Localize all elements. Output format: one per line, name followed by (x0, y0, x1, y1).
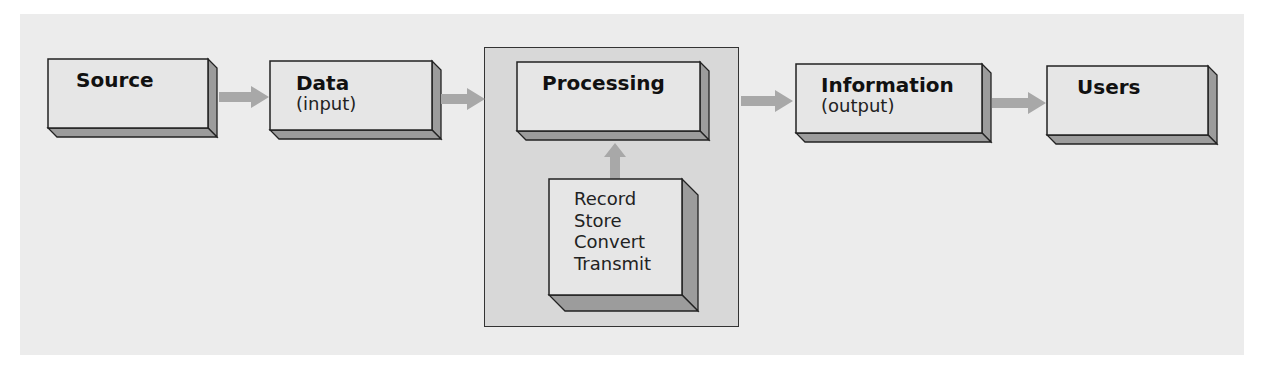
source-title: Source (76, 69, 154, 91)
information-subtitle: (output) (821, 96, 954, 116)
arrow-right-icon (741, 90, 793, 112)
users-title: Users (1077, 76, 1140, 98)
arrow-right-icon (219, 86, 269, 108)
data-subtitle: (input) (296, 94, 356, 114)
step-convert: Convert (574, 231, 651, 253)
data-title: Data (296, 72, 356, 94)
arrow-right-icon (441, 88, 485, 110)
processing-title: Processing (542, 72, 665, 94)
step-store: Store (574, 210, 651, 232)
step-transmit: Transmit (574, 253, 651, 275)
information-title: Information (821, 74, 954, 96)
step-record: Record (574, 188, 651, 210)
arrow-up-icon (604, 143, 626, 181)
arrow-right-icon (992, 92, 1046, 114)
